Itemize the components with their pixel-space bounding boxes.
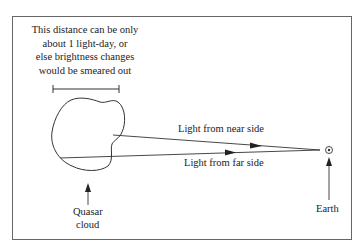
quasar-label-line2: cloud [76, 219, 99, 230]
near-side-label: Light from near side [178, 123, 264, 134]
quasar-cloud-shape [52, 98, 125, 170]
distance-bar [53, 85, 119, 93]
earth-arrowhead [326, 157, 332, 166]
far-arrowhead [225, 150, 236, 156]
far-side-label: Light from far side [184, 157, 264, 168]
quasar-arrowhead [85, 183, 91, 192]
near-arrowhead [250, 143, 262, 149]
quasar-label-line1: Quasar [73, 206, 103, 217]
earth-label: Earth [316, 203, 339, 214]
earth-icon [326, 147, 333, 154]
